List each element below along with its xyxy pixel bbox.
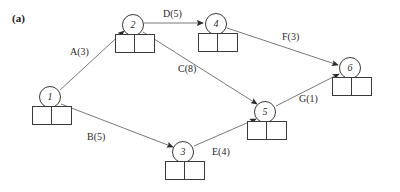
node-box-4[interactable] [198,33,238,52]
node-label-1: 1 [48,92,53,102]
node-box-cell-2-right[interactable] [135,35,154,52]
node-circle-1[interactable]: 1 [39,86,61,108]
node-box-2[interactable] [115,34,155,53]
edge-label-E: E(4) [212,147,230,157]
node-label-4: 4 [214,19,219,29]
node-circle-5[interactable]: 5 [254,101,276,123]
edge-label-D: D(5) [163,9,182,19]
edge-label-B: B(5) [87,132,105,142]
edge-label-F: F(3) [282,32,299,42]
edge-label-A: A(3) [70,47,89,57]
node-box-cell-4-right[interactable] [218,34,237,51]
node-label-5: 5 [263,107,268,117]
node-box-1[interactable] [32,106,72,125]
node-circle-6[interactable]: 6 [339,57,361,79]
node-circle-2[interactable]: 2 [122,14,144,36]
edge-label-G: G(1) [299,94,318,104]
node-box-cell-3-right[interactable] [185,162,204,179]
edge-arrow-B [61,104,173,147]
node-circle-4[interactable]: 4 [205,13,227,35]
node-circle-3[interactable]: 3 [172,141,194,163]
node-box-cell-6-left[interactable] [333,78,352,95]
node-box-6[interactable] [332,77,372,96]
node-label-2: 2 [131,20,136,30]
node-box-3[interactable] [165,161,205,180]
node-label-3: 3 [181,147,186,157]
node-box-cell-5-left[interactable] [248,122,267,139]
edge-label-C: C(8) [178,64,196,74]
figure-canvas: (a) 1 2 3 4 [0,0,400,192]
node-box-cell-2-left[interactable] [116,35,135,52]
node-box-5[interactable] [247,121,287,140]
figure-caption: (a) [12,12,25,24]
node-box-cell-1-left[interactable] [33,107,52,124]
node-box-cell-1-right[interactable] [52,107,71,124]
node-box-cell-4-left[interactable] [199,34,218,51]
node-box-cell-6-right[interactable] [352,78,371,95]
node-box-cell-3-left[interactable] [166,162,185,179]
node-box-cell-5-right[interactable] [267,122,286,139]
node-label-6: 6 [348,63,353,73]
